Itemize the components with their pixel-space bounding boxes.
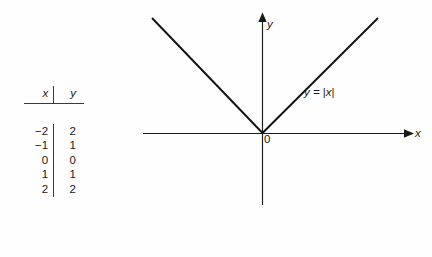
axis-label-x: x (415, 128, 421, 140)
curve-right-arm (263, 18, 379, 133)
x-axis-arrow-icon (404, 129, 414, 137)
curve-label-equals: = (310, 86, 323, 98)
graph-svg (0, 0, 432, 257)
curve-left-arm (152, 18, 263, 133)
graph-region: y x 0 y = |x| (0, 0, 432, 257)
curve-label-bar-close: | (332, 86, 335, 98)
curve-equation-label: y = |x| (304, 87, 335, 99)
origin-label: 0 (264, 134, 270, 146)
y-axis-arrow-icon (258, 13, 266, 23)
axis-label-y: y (267, 19, 273, 31)
figure-canvas: x y −2 2 −1 1 0 0 1 1 (0, 0, 432, 257)
